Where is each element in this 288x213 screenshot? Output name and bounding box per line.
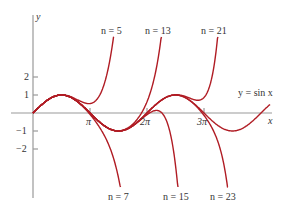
label-n13: n = 13: [145, 26, 171, 36]
y-tick-label-m1: −1: [16, 126, 27, 136]
y-tick-label-1: 1: [24, 90, 29, 100]
x-tick-label-2pi: 2π: [140, 117, 150, 127]
y-tick-label-2: 2: [24, 72, 29, 82]
y-axis-label: y: [36, 12, 40, 22]
curve-n-15: [33, 95, 178, 187]
curve-n-23: [33, 95, 228, 187]
label-n23: n = 23: [210, 192, 236, 202]
y-tick-label-m2: −2: [16, 144, 27, 154]
x-tick-label-pi: π: [86, 117, 91, 127]
curves: [33, 37, 270, 187]
plot-area: [0, 0, 288, 213]
x-tick-label-3pi: 3π: [197, 117, 207, 127]
curve-n-21: [33, 37, 218, 131]
label-n21: n = 21: [201, 26, 227, 36]
axes: [11, 15, 272, 198]
label-n15: n = 15: [163, 192, 189, 202]
x-axis-label: x: [268, 116, 272, 126]
curve-n-7: [33, 95, 121, 187]
label-sin: y = sin x: [238, 88, 273, 98]
label-n7: n = 7: [108, 192, 129, 202]
label-n5: n = 5: [101, 26, 122, 36]
